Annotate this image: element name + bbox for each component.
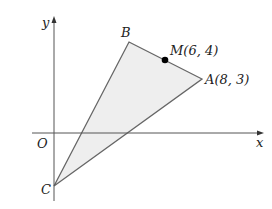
y-axis-arrow-icon — [52, 16, 57, 23]
triangle-abc — [54, 42, 202, 186]
point-a-label: A(8, 3) — [204, 72, 249, 87]
point-c-label: C — [41, 182, 51, 197]
origin-label: O — [37, 136, 48, 151]
x-axis-label: x — [256, 135, 264, 150]
point-m-label: M(6, 4) — [169, 43, 218, 58]
point-m-dot — [162, 57, 169, 64]
point-b-label: B — [120, 25, 131, 40]
geometry-diagram: y x O B M(6, 4) A(8, 3) C — [0, 0, 272, 209]
y-axis-label: y — [41, 15, 50, 30]
